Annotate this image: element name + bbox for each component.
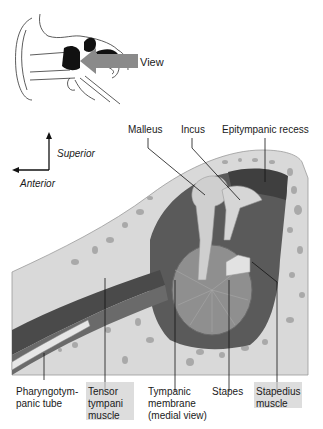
malleus-label: Malleus xyxy=(128,124,162,136)
stapes-label: Stapes xyxy=(212,386,243,398)
incus-label: Incus xyxy=(181,124,205,136)
pharyngotympanic-tube-label: Pharyngotym- panic tube xyxy=(16,386,78,410)
middle-ear-cross-section xyxy=(0,0,323,429)
stapedius-label: Stapedius muscle xyxy=(256,386,300,410)
epitympanic-recess-label: Epitympanic recess xyxy=(222,124,309,136)
tympanic-membrane-label: Tympanic membrane (medial view) xyxy=(148,386,207,422)
tensor-tympani-label: Tensor tympani muscle xyxy=(88,386,123,422)
